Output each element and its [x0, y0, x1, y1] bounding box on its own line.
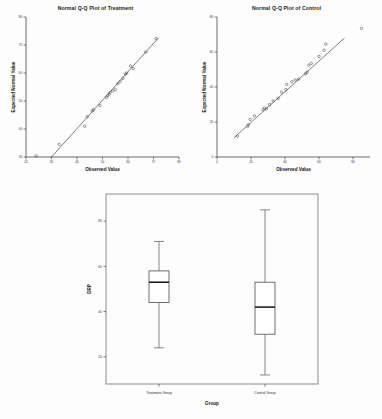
y-tick-label: 40 — [98, 310, 102, 314]
data-point — [236, 135, 239, 138]
qq-control-panel: Normal Q-Q Plot of Control 0204060800204… — [191, 0, 382, 190]
y-tick-label: 70 — [19, 43, 23, 47]
data-point — [291, 81, 294, 84]
y-tick-label: 60 — [19, 71, 23, 75]
reference-line — [234, 38, 345, 138]
x-tick-label: 20 — [24, 160, 28, 164]
y-tick-label: 80 — [98, 219, 102, 223]
x-tick-label: 20 — [249, 160, 253, 164]
data-point — [58, 143, 61, 146]
y-tick-label: 40 — [19, 127, 23, 131]
x-tick-label: 40 — [75, 160, 79, 164]
data-point — [360, 27, 363, 30]
data-point — [285, 88, 288, 91]
qq-control-svg: 020406080020406080Observed ValueExpected… — [191, 0, 382, 185]
y-tick-label: 60 — [210, 50, 214, 54]
data-point — [272, 100, 275, 103]
y-axis-title: Expected Normal Value — [202, 61, 207, 112]
box-group — [255, 210, 275, 375]
x-tick-label: 60 — [126, 160, 130, 164]
y-tick-label: 30 — [19, 155, 23, 159]
y-tick-label: 20 — [98, 355, 102, 359]
data-point — [280, 91, 283, 94]
x-tick-label: 60 — [317, 160, 321, 164]
data-point — [155, 37, 158, 40]
x-axis-title: Observed Value — [85, 167, 120, 172]
x-tick-label: 50 — [101, 160, 105, 164]
boxplot-svg: 20406080Treatment GroupControl GroupGrou… — [78, 188, 328, 419]
data-point — [111, 90, 114, 93]
group-label: Control Group — [254, 391, 275, 395]
data-point — [253, 115, 256, 118]
box-iqr — [149, 271, 169, 303]
data-point — [249, 118, 252, 121]
data-point — [129, 65, 132, 68]
y-tick-label: 80 — [19, 15, 23, 19]
qq-control-title: Normal Q-Q Plot of Control — [191, 5, 382, 11]
x-tick-label: 40 — [283, 160, 287, 164]
data-point — [132, 67, 135, 70]
x-axis-title: Group — [205, 401, 219, 406]
y-tick-label: 50 — [19, 99, 23, 103]
data-point — [325, 43, 328, 46]
data-point — [318, 55, 321, 58]
qq-treatment-svg: 20304050607080304050607080Observed Value… — [0, 0, 191, 185]
qq-treatment-panel: Normal Q-Q Plot of Treatment 20304050607… — [0, 0, 191, 190]
y-tick-label: 40 — [210, 85, 214, 89]
data-point — [310, 62, 313, 65]
y-axis-title: DRP — [87, 284, 92, 294]
data-point — [114, 88, 117, 91]
x-tick-label: 80 — [177, 160, 181, 164]
plot-frame — [106, 194, 318, 384]
y-tick-label: 20 — [210, 120, 214, 124]
x-tick-label: 80 — [351, 160, 355, 164]
data-point — [323, 49, 326, 52]
data-point — [285, 83, 288, 86]
y-tick-label: 0 — [211, 155, 213, 159]
qq-treatment-title: Normal Q-Q Plot of Treatment — [0, 5, 191, 11]
box-iqr — [255, 282, 275, 334]
x-axis-title: Observed Value — [276, 167, 311, 172]
x-tick-label: 30 — [50, 160, 54, 164]
data-point — [99, 104, 102, 107]
y-tick-label: 80 — [210, 15, 214, 19]
data-point — [294, 79, 297, 82]
boxplot-panel: 20406080Treatment GroupControl GroupGrou… — [78, 188, 328, 419]
y-tick-label: 60 — [98, 265, 102, 269]
data-point — [83, 125, 86, 128]
data-point — [308, 64, 311, 67]
box-group — [149, 242, 169, 348]
x-tick-label: 0 — [216, 160, 218, 164]
x-tick-label: 70 — [152, 160, 156, 164]
group-label: Treatment Group — [146, 391, 172, 395]
y-axis-title: Expected Normal Value — [11, 61, 16, 112]
